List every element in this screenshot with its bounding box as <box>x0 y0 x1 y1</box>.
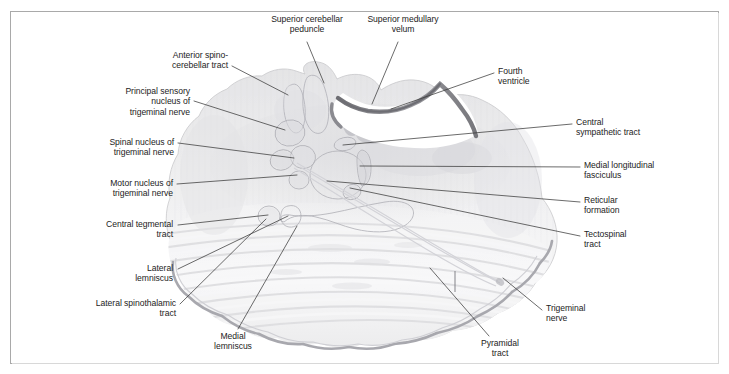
label-tectospinal-tract: Tectospinal tract <box>584 229 672 250</box>
label-central-tegmental-tract: Central tegmental tract <box>61 219 173 240</box>
label-pyramidal-tract: Pyramidal tract <box>460 338 540 359</box>
label-principal-sensory-nucleus-of-trigeminal-nerve: Principal sensory nucleus of trigeminal … <box>86 86 190 117</box>
label-trigeminal-nerve: Trigeminal nerve <box>546 303 630 324</box>
label-motor-nucleus-of-trigeminal-nerve: Motor nucleus of trigeminal nerve <box>65 178 173 199</box>
label-medial-lemniscus: Medial lemniscus <box>195 331 271 352</box>
label-lateral-lemniscus: Lateral lemniscus <box>97 263 173 284</box>
label-medial-longitudinal-fasciculus: Medial longitudinal fasciculus <box>584 160 704 181</box>
label-lateral-spinothalamic-tract: Lateral spinothalamic tract <box>44 298 176 319</box>
label-fourth-ventricle: Fourth ventricle <box>498 66 578 87</box>
label-superior-medullary-velum: Superior medullary velum <box>345 14 461 35</box>
label-reticular-formation: Reticular formation <box>584 195 668 216</box>
label-spinal-nucleus-of-trigeminal-nerve: Spinal nucleus of trigeminal nerve <box>66 137 174 158</box>
label-central-sympathetic-tract: Central sympathetic tract <box>576 117 680 138</box>
label-anterior-spinocerebellar-tract: Anterior spino- cerebellar tract <box>128 50 228 71</box>
figure-root: Superior cerebellar peduncleSuperior med… <box>0 0 729 374</box>
